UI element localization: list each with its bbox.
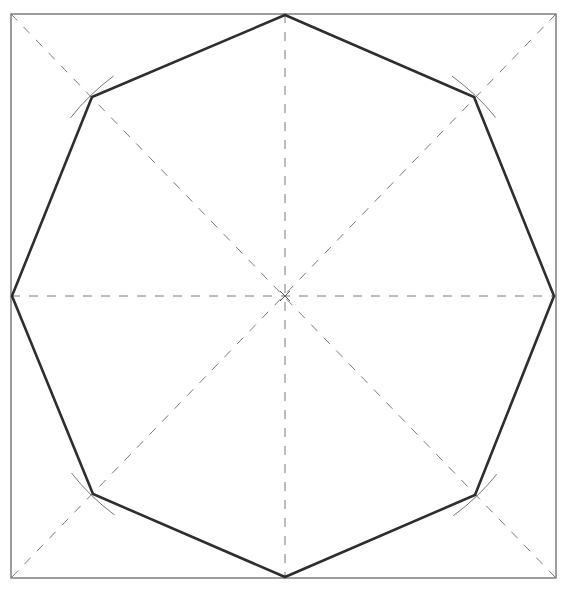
octagon-construction-diagram xyxy=(0,0,563,593)
